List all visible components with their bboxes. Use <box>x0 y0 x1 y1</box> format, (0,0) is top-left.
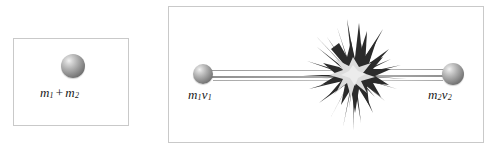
combined-mass-sphere <box>61 54 85 78</box>
velocity-one-subscript: 1 <box>208 93 212 102</box>
collision-starburst-icon <box>297 13 409 135</box>
plus-operator: + <box>54 85 66 100</box>
combined-mass-panel: m1+m2 <box>13 38 129 126</box>
mass-one-sphere <box>193 64 213 84</box>
mass-two-sphere <box>442 63 464 85</box>
mass-two-symbol: m <box>428 87 438 102</box>
collision-panel: m1v1 m2v2 <box>168 6 484 143</box>
combined-mass-label: m1+m2 <box>40 85 79 101</box>
velocity-two-subscript: 2 <box>448 93 452 102</box>
mass-two-subscript: 2 <box>75 91 79 100</box>
mass-two-momentum-label: m2v2 <box>428 87 452 103</box>
mass-one-momentum-label: m1v1 <box>188 87 212 103</box>
mass-two-symbol: m <box>65 85 75 100</box>
mass-one-symbol: m <box>188 87 198 102</box>
mass-one-symbol: m <box>40 85 50 100</box>
